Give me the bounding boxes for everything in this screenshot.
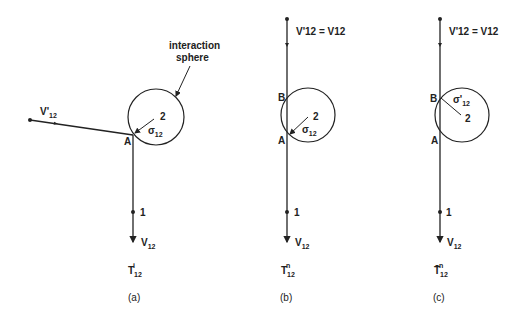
collision-diagram: V'12 interaction sphere 2 σ12 A 1 V12 T1… — [0, 0, 507, 323]
trajectory-label: T12n — [281, 262, 295, 278]
panel-a: V'12 interaction sphere 2 σ12 A 1 V12 T1… — [28, 40, 220, 303]
point-b-label: B — [278, 92, 285, 103]
point-a-label: A — [431, 135, 438, 146]
particle-2-label: 2 — [313, 111, 319, 122]
caption-c: (c) — [433, 292, 445, 303]
caption-a: (a) — [128, 292, 140, 303]
trajectory-label: T12i — [128, 262, 142, 278]
sphere-label-line2: sphere — [176, 52, 209, 63]
sigma-label: σ'12 — [453, 94, 470, 107]
point-b-label: B — [430, 93, 437, 104]
sphere-label-line1: interaction — [169, 40, 220, 51]
particle-1-label: 1 — [446, 207, 452, 218]
particle-1-label: 1 — [294, 207, 300, 218]
sigma-label: σ12 — [302, 124, 317, 137]
outgoing-velocity-label: V12 — [295, 237, 310, 250]
sphere-pointer — [176, 66, 190, 96]
particle-2-label: 2 — [465, 113, 471, 124]
outgoing-velocity-label: V12 — [141, 237, 156, 250]
particle-2-label: 2 — [160, 111, 166, 122]
panel-b: V'12 = V12 B 2 σ12 A 1 V12 T12n (b) — [278, 17, 346, 303]
trajectory-label: T̄12n — [434, 262, 448, 278]
point-a-label: A — [124, 136, 131, 147]
point-a-label: A — [278, 135, 285, 146]
incoming-velocity-label: V'12 — [40, 106, 57, 119]
caption-b: (b) — [280, 292, 292, 303]
outgoing-velocity-label: V12 — [447, 237, 462, 250]
panel-c: V'12 = V12 B σ'12 2 A 1 V12 T̄12n (c) — [430, 17, 499, 303]
velocity-equality: V'12 = V12 — [296, 26, 346, 37]
particle-1-label: 1 — [140, 207, 146, 218]
sigma-label: σ12 — [148, 125, 163, 138]
velocity-equality: V'12 = V12 — [449, 26, 499, 37]
incoming-trajectory — [30, 120, 133, 135]
